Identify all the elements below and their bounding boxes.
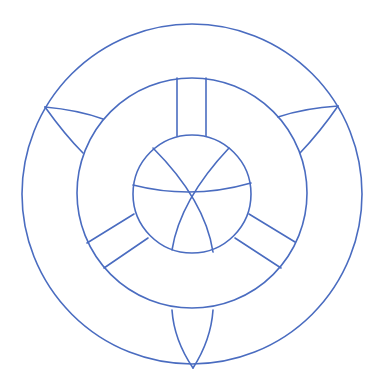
outer-circle [22, 24, 362, 364]
upper-right-leaf-edge-2 [300, 106, 338, 153]
left-to-bottom-right-arc [153, 148, 213, 252]
horizontal-arc [133, 183, 251, 192]
lower-left-spoke-line-2 [104, 238, 148, 268]
spokes-group [87, 78, 295, 268]
lower-right-spoke-line-1 [249, 214, 295, 242]
lower-right-spoke-line-2 [235, 238, 281, 268]
lower-left-spoke-line-1 [87, 214, 134, 243]
concentric-circle-diagram [0, 0, 379, 388]
bottom-leaf-edge-1 [172, 310, 193, 368]
right-to-bottom-left-arc [172, 148, 229, 250]
upper-left-leaf-edge-1 [45, 107, 103, 119]
bottom-leaf-edge-2 [193, 310, 213, 368]
middle-circle [77, 78, 307, 308]
upper-right-leaf-edge-1 [278, 106, 338, 117]
diagram-canvas [0, 0, 379, 388]
inner-circle [133, 135, 251, 253]
upper-left-leaf-edge-2 [45, 107, 83, 153]
